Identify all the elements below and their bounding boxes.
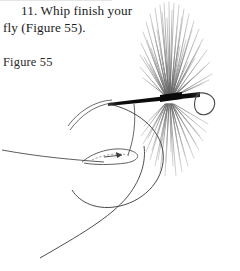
hook-shank <box>108 92 200 106</box>
document-page: 11. Whip finish your fly (Figure 55). Fi… <box>0 0 240 271</box>
whip-finish-loop-inner <box>92 154 130 160</box>
direction-arrow-head <box>116 152 122 158</box>
hackle-fibers-lower <box>141 104 208 178</box>
figure-illustration <box>0 0 240 271</box>
tying-thread <box>2 150 104 162</box>
hackle-fibers-upper <box>140 2 212 96</box>
